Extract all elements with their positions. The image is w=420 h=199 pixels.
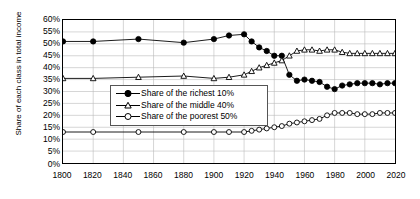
- y-tick-5: 5%: [26, 147, 60, 156]
- y-tick-25: 25%: [26, 99, 60, 108]
- series-1: [63, 47, 395, 81]
- y-tick-35: 35%: [26, 75, 60, 84]
- legend-key-open-circle-icon: [115, 111, 141, 122]
- income-share-chart: Share of each class in total income 0%5%…: [0, 0, 420, 199]
- y-tick-50: 50%: [26, 39, 60, 48]
- y-tick-20: 20%: [26, 111, 60, 120]
- legend-label-poorest: Share of the poorest 50%: [141, 112, 237, 121]
- series-0: [63, 32, 395, 92]
- legend-key-filled-circle-icon: [115, 88, 141, 99]
- y-axis-title: Share of each class in total income: [14, 0, 23, 154]
- chart-legend: Share of the richest 10% Share of the mi…: [110, 85, 268, 126]
- legend-label-middle: Share of the middle 40%: [141, 101, 234, 110]
- legend-item-poorest: Share of the poorest 50%: [111, 111, 267, 123]
- y-tick-10: 10%: [26, 135, 60, 144]
- y-tick-45: 45%: [26, 51, 60, 60]
- legend-item-middle: Share of the middle 40%: [111, 100, 267, 112]
- legend-item-richest: Share of the richest 10%: [111, 88, 267, 100]
- x-tick-2020: 2020: [376, 170, 416, 180]
- y-tick-55: 55%: [26, 27, 60, 36]
- y-tick-60: 60%: [26, 15, 60, 24]
- y-tick-40: 40%: [26, 63, 60, 72]
- legend-label-richest: Share of the richest 10%: [141, 89, 234, 98]
- legend-key-open-triangle-icon: [115, 100, 141, 111]
- x-axis-tick-labels: 1800182018401860188019001920194019601980…: [0, 167, 420, 187]
- y-tick-30: 30%: [26, 87, 60, 96]
- y-tick-15: 15%: [26, 123, 60, 132]
